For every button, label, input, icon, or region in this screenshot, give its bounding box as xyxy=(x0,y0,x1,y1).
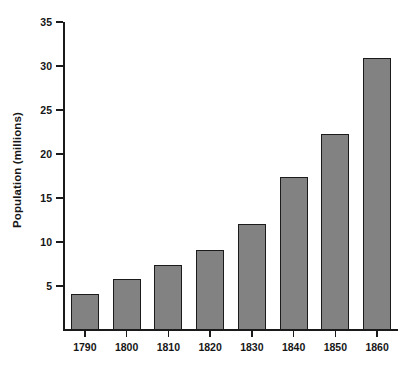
x-tick-label: 1860 xyxy=(365,341,388,353)
y-tick-label: 5 xyxy=(46,280,52,292)
x-tick-label: 1810 xyxy=(157,341,180,353)
y-tick-mark xyxy=(56,21,63,23)
x-tick-mark xyxy=(209,330,211,337)
y-axis-line xyxy=(63,22,65,331)
x-tick-mark xyxy=(335,330,337,337)
x-tick-mark xyxy=(293,330,295,337)
y-tick-mark xyxy=(56,285,63,287)
y-tick-mark xyxy=(56,65,63,67)
y-tick-label: 10 xyxy=(40,236,52,248)
bar-1790 xyxy=(71,294,99,330)
y-axis-title: Population (millions) xyxy=(0,0,34,340)
y-tick-label: 30 xyxy=(40,60,52,72)
x-tick-label: 1800 xyxy=(115,341,138,353)
y-axis-title-label: Population (millions) xyxy=(11,112,23,228)
bar-1830 xyxy=(238,224,266,330)
bar-1810 xyxy=(154,265,182,330)
bar-1820 xyxy=(196,250,224,330)
x-tick-label: 1850 xyxy=(324,341,347,353)
x-tick-mark xyxy=(251,330,253,337)
x-tick-label: 1790 xyxy=(73,341,96,353)
x-tick-mark xyxy=(84,330,86,337)
x-tick-mark xyxy=(168,330,170,337)
x-tick-label: 1830 xyxy=(240,341,263,353)
bar-1860 xyxy=(363,58,391,330)
y-tick-mark xyxy=(56,197,63,199)
bar-1800 xyxy=(113,279,141,330)
y-tick-mark xyxy=(56,241,63,243)
x-tick-label: 1840 xyxy=(282,341,305,353)
x-tick-mark xyxy=(126,330,128,337)
y-tick-label: 15 xyxy=(40,192,52,204)
x-tick-label: 1820 xyxy=(198,341,221,353)
bar-1850 xyxy=(321,134,349,330)
x-tick-mark xyxy=(376,330,378,337)
y-tick-mark xyxy=(56,153,63,155)
y-tick-label: 35 xyxy=(40,16,52,28)
y-tick-label: 25 xyxy=(40,104,52,116)
y-tick-mark xyxy=(56,109,63,111)
bar-chart-figure: Population (millions) 5101520253035 1790… xyxy=(0,0,405,373)
y-tick-label: 20 xyxy=(40,148,52,160)
bar-1840 xyxy=(280,177,308,330)
